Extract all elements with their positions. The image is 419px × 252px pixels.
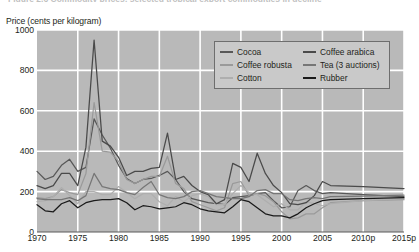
line-chart (0, 0, 419, 252)
legend-swatch-line-icon (303, 77, 316, 79)
legend-column-left: CocoaCoffee robustaCotton (220, 45, 292, 84)
y-tick-label: 1000 (2, 26, 34, 34)
legend-item: Coffee robusta (220, 58, 292, 71)
x-tick-label: 1995 (219, 234, 263, 243)
legend-item-label: Cocoa (237, 47, 261, 57)
x-tick-label: 1990 (178, 234, 222, 243)
legend-swatch-line-icon (220, 77, 233, 79)
legend-item-label: Cotton (237, 73, 262, 83)
legend-item: Tea (3 auctions) (303, 58, 380, 71)
legend-item-label: Coffee arabica (320, 47, 374, 57)
x-tick-label: 1970 (15, 234, 59, 243)
x-tick-label: 1985 (137, 234, 181, 243)
legend-swatch-line-icon (220, 51, 233, 53)
x-axis: 197019751980198519901995200020052010p201… (0, 234, 419, 248)
x-tick-label: 1975 (56, 234, 100, 243)
legend-swatch-line-icon (303, 64, 316, 66)
legend-item: Coffee arabica (303, 45, 380, 58)
plot-area (0, 0, 419, 252)
y-tick-label: 200 (2, 188, 34, 196)
x-tick-label: 2000 (260, 234, 304, 243)
legend-swatch-line-icon (220, 64, 233, 66)
legend-column-right: Coffee arabicaTea (3 auctions)Rubber (303, 45, 380, 84)
y-tick-label: 400 (2, 147, 34, 155)
legend-item: Cocoa (220, 45, 292, 58)
x-tick-label: 2015p (382, 234, 419, 243)
figure-container: Figure 2.6 Commodity prices: selected tr… (0, 0, 419, 252)
y-tick-label: 600 (2, 107, 34, 115)
legend-item-label: Tea (3 auctions) (320, 60, 380, 70)
legend-item-label: Coffee robusta (237, 60, 292, 70)
y-axis: 02004006008001000 (0, 0, 34, 252)
y-tick-label: 800 (2, 66, 34, 74)
x-tick-label: 2005 (300, 234, 344, 243)
chart-legend: CocoaCoffee robustaCotton Coffee arabica… (214, 41, 390, 89)
legend-swatch-line-icon (303, 51, 316, 53)
legend-item-label: Rubber (320, 73, 347, 83)
legend-item: Cotton (220, 71, 292, 84)
x-tick-label: 1980 (97, 234, 141, 243)
legend-item: Rubber (303, 71, 380, 84)
x-tick-label: 2010p (341, 234, 385, 243)
